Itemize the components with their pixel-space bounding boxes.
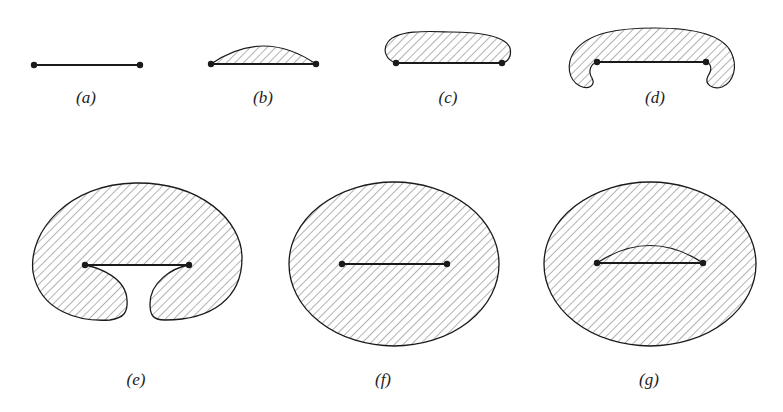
label-g: (g) — [639, 370, 659, 390]
endpoint-right — [137, 62, 143, 68]
endpoint-left — [594, 260, 600, 266]
panel-a — [31, 62, 143, 68]
endpoint-left — [208, 61, 214, 67]
endpoint-left — [594, 59, 600, 65]
panel-g — [544, 182, 756, 346]
hatched-lens — [211, 46, 316, 64]
panel-e — [33, 183, 242, 320]
panel-b — [208, 46, 319, 67]
panel-d — [569, 28, 734, 88]
endpoint-right — [444, 261, 450, 267]
endpoint-left — [393, 60, 399, 66]
endpoint-right — [700, 260, 706, 266]
endpoint-left — [31, 62, 37, 68]
panel-c — [385, 31, 510, 66]
endpoint-right — [703, 59, 709, 65]
label-f: (f) — [375, 370, 391, 390]
label-e: (e) — [127, 370, 146, 390]
hatched-hook-region — [569, 28, 734, 88]
panel-f — [289, 182, 499, 346]
label-c: (c) — [439, 88, 458, 108]
endpoint-right — [499, 60, 505, 66]
label-a: (a) — [76, 88, 96, 108]
label-d: (d) — [645, 88, 665, 108]
label-b: (b) — [253, 88, 273, 108]
figure-canvas — [0, 0, 783, 412]
endpoint-left — [339, 261, 345, 267]
hatched-dome — [385, 31, 510, 63]
endpoint-left — [82, 262, 88, 268]
endpoint-right — [313, 61, 319, 67]
hatched-near-enclosure — [33, 183, 242, 320]
endpoint-right — [186, 262, 192, 268]
